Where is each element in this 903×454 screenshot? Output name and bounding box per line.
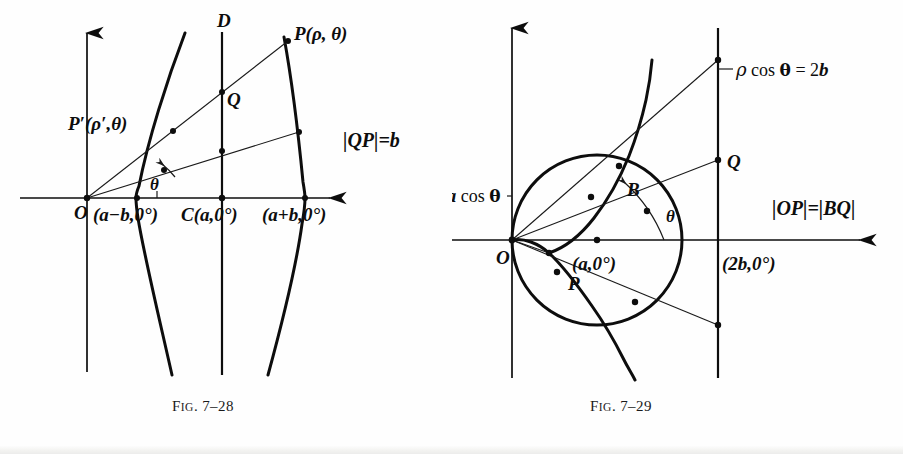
point-P-dot-7-28	[285, 38, 291, 44]
origin-dot-7-29	[509, 237, 516, 244]
label-relation-7-29: |OP|=|BQ|	[772, 197, 855, 220]
caption-right-smallcaps: IG	[599, 401, 612, 413]
label-circle-equation-7-29: ρ=2a cos θ	[452, 185, 501, 206]
point-inner-lower-dot-7-28	[161, 167, 167, 173]
ray-O-lower-7-28	[87, 132, 299, 198]
label-circle-center-7-29: (a,0°)	[572, 253, 616, 275]
point-line-lower-dot-7-29	[715, 322, 721, 328]
label-center-C-7-28: C(a,0°)	[181, 204, 238, 226]
point-upper-curve-cross-dot-7-29	[616, 163, 622, 169]
figure-7-28: D P(ρ, θ) Q P′(ρ′,θ) |QP|=b θ O (a−b,0°)…	[0, 0, 452, 454]
center-C-dot-7-28	[219, 195, 225, 201]
intercept-inner-dot-7-28	[134, 195, 140, 201]
label-line-equation-7-29: ρ cos θ = 2b	[735, 59, 829, 80]
caption-left-number: . 7–28	[194, 398, 234, 414]
label-origin-O-7-29: O	[496, 247, 510, 268]
caption-left-smallcaps: IG	[181, 401, 194, 413]
intercept-outer-dot-7-28	[302, 195, 308, 201]
caption-left-prefix: F	[172, 398, 181, 414]
caption-right-prefix: F	[590, 398, 599, 414]
figure-7-29-canvas: ρ cos θ = 2b ρ=2a cos θ Q B P θ O (a,0°)…	[452, 0, 903, 400]
point-B-dot-7-29	[644, 208, 650, 214]
label-point-B-7-29: B	[626, 179, 640, 200]
point-line-upper-dot-7-29	[715, 57, 721, 63]
label-origin-O-7-28: O	[74, 202, 88, 223]
circle-center-dot-7-29	[594, 237, 600, 243]
point-P-dot-7-29	[554, 269, 560, 275]
label-angle-theta-7-29: θ	[666, 207, 675, 226]
point-circle-upper-dot-7-29	[588, 194, 594, 200]
label-point-P-7-29: P	[567, 273, 580, 294]
label-point-P-7-28: P(ρ, θ)	[293, 23, 347, 45]
caption-right-number: . 7–29	[612, 398, 652, 414]
caption-figure-7-28: FIG. 7–28	[172, 398, 234, 415]
label-point-Q-7-28: Q	[227, 89, 241, 110]
figure-7-29: ρ cos θ = 2b ρ=2a cos θ Q B P θ O (a,0°)…	[452, 0, 903, 454]
point-Q-dot-7-29	[715, 157, 721, 163]
label-directrix-D: D	[216, 10, 231, 31]
point-outer-lower-dot-7-28	[296, 129, 302, 135]
label-intercept-inner-7-28: (a−b,0°)	[93, 204, 158, 226]
page-bottom-edge	[0, 445, 903, 454]
point-Pprime-dot-7-28	[170, 128, 176, 134]
point-Q-dot-7-28	[219, 89, 225, 95]
point-mid-lower-dot-7-28	[219, 148, 225, 154]
caption-figure-7-29: FIG. 7–29	[590, 398, 652, 415]
figure-7-28-canvas: D P(ρ, θ) Q P′(ρ′,θ) |QP|=b θ O (a−b,0°)…	[0, 0, 452, 400]
ray-O-to-Q-7-29	[512, 160, 718, 240]
cusp-dot-7-29	[546, 250, 552, 256]
figure-page: D P(ρ, θ) Q P′(ρ′,θ) |QP|=b θ O (a−b,0°)…	[0, 0, 903, 454]
label-point-P-prime-7-28: P′(ρ′,θ)	[67, 113, 127, 135]
origin-dot-7-28	[84, 195, 90, 201]
label-point-Q-7-29: Q	[727, 151, 741, 172]
ray-O-to-line-upper-7-29	[512, 60, 718, 240]
label-angle-theta-7-28: θ	[150, 175, 159, 194]
label-relation-7-28: |QP|=b	[343, 129, 400, 152]
label-line-intercept-7-29: (2b,0°)	[722, 253, 776, 275]
label-intercept-outer-7-28: (a+b,0°)	[262, 204, 326, 226]
point-circle-lower-dot-7-29	[632, 299, 638, 305]
